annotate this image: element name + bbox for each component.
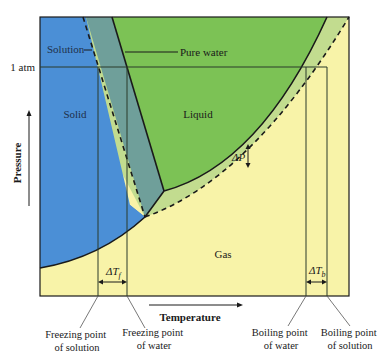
freezing-point-solution-label: Freezing point of solution bbox=[45, 329, 109, 353]
boiling-water-leader bbox=[288, 296, 306, 326]
pure-water-curve-label: Pure water bbox=[180, 46, 228, 58]
boiling-point-water-label: Boiling point of water bbox=[252, 327, 310, 351]
gas-label: Gas bbox=[214, 248, 231, 260]
pressure-axis-label: Pressure bbox=[11, 143, 23, 184]
pressure-arrowhead bbox=[27, 110, 32, 116]
boiling-point-solution-label: Boiling point of solution bbox=[321, 327, 378, 351]
phase-diagram: 1 atm Solution Pure water Solid Liquid G… bbox=[0, 0, 378, 360]
solid-label: Solid bbox=[63, 108, 87, 120]
temperature-arrowhead bbox=[237, 303, 243, 308]
delta-p-label: ΔP bbox=[231, 151, 245, 163]
temperature-axis-label: Temperature bbox=[159, 311, 220, 323]
freezing-water-leader bbox=[127, 296, 145, 328]
boiling-solution-leader bbox=[327, 296, 350, 326]
solution-curve-label: Solution bbox=[47, 43, 85, 55]
freezing-solution-leader bbox=[80, 296, 98, 328]
freezing-point-water-label: Freezing point of water bbox=[122, 327, 186, 351]
one-atm-label: 1 atm bbox=[10, 61, 35, 73]
liquid-label: Liquid bbox=[183, 108, 213, 120]
